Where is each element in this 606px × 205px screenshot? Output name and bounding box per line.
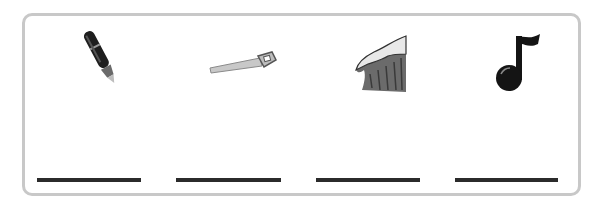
- answer-line-4[interactable]: [455, 178, 558, 182]
- saw-icon: [208, 50, 278, 76]
- wave-icon: [354, 34, 408, 94]
- music-note-icon: [494, 32, 544, 94]
- answer-line-3[interactable]: [316, 178, 420, 182]
- pen-icon: [80, 26, 124, 92]
- answer-line-1[interactable]: [37, 178, 141, 182]
- answer-line-2[interactable]: [176, 178, 281, 182]
